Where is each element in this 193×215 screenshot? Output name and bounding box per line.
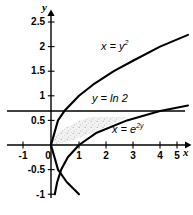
x-tick-label-3: 3 (127, 151, 139, 161)
y-tick-label-1: 1 (26, 91, 45, 101)
y-axis-label: y (42, 2, 47, 13)
y-tick-label-1-5: 1.5 (26, 66, 45, 76)
y-tick-label-0-5: 0.5 (26, 116, 45, 126)
curve-label-hline: y = ln 2 (92, 92, 128, 104)
curve-label-exponential: x = e2y (112, 123, 144, 135)
curve-label-exponential-exponent: 2y (136, 122, 143, 129)
x-tick-label-4: 4 (154, 151, 166, 161)
y-tick-label-2: 2 (26, 42, 45, 52)
y-axis (47, 10, 54, 199)
x-tick-label-2: 2 (100, 151, 112, 161)
curve-label-exponential-text: x = e (112, 123, 136, 135)
y-tick-label-neg-0-5: -0.5 (22, 165, 45, 175)
x-axis-label: x (183, 147, 189, 158)
x-axis (7, 141, 192, 148)
plot-canvas (0, 0, 193, 215)
curve-label-parabola: x = y2 (101, 40, 128, 52)
graph-figure: 2.5 2 1.5 1 0.5 -0.5 -1 -1 0 1 2 3 4 5 y… (0, 0, 193, 215)
x-tick-label-0: 0 (42, 151, 54, 161)
x-tick-label-5: 5 (171, 151, 183, 161)
curve-label-parabola-text: x = y (101, 40, 125, 52)
curve-label-parabola-exponent: 2 (125, 39, 129, 46)
y-tick-label-2-5: 2.5 (26, 17, 45, 27)
y-tick-label-neg-1: -1 (22, 190, 45, 200)
x-tick-label-neg-1: -1 (14, 151, 32, 161)
curve-x-equals-y-squared (51, 35, 188, 194)
x-tick-label-1: 1 (73, 151, 85, 161)
